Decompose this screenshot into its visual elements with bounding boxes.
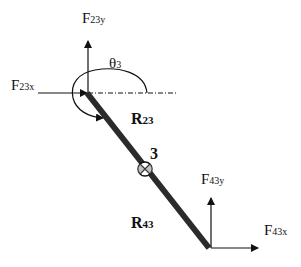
theta-subscript: 3 — [116, 59, 121, 70]
link-number: 3 — [150, 145, 158, 162]
free-body-diagram: F23y F23x θ3 R23 3 F43y R43 F43x — [0, 0, 301, 267]
f43y-label-sub: 43y — [209, 175, 224, 186]
f23y-label-sub: 23y — [90, 14, 105, 25]
link-number-label: 3 — [150, 146, 158, 162]
r43-label-sub: 43 — [143, 218, 154, 230]
f43y-label: F43y — [201, 171, 224, 187]
r23-label-sub: 23 — [143, 114, 154, 126]
f43x-label: F43x — [264, 222, 287, 238]
f23x-label: F23x — [11, 77, 34, 93]
f43x-label-sub: 43x — [272, 226, 287, 237]
r43-label: R43 — [131, 215, 154, 231]
theta3-label: θ3 — [109, 55, 121, 71]
f23y-label: F23y — [82, 10, 105, 26]
f23x-label-sub: 23x — [19, 81, 34, 92]
r43-label-main: R — [131, 214, 143, 231]
r23-label-main: R — [131, 110, 143, 127]
r23-label: R23 — [131, 111, 154, 127]
center-of-mass-icon — [138, 162, 152, 176]
